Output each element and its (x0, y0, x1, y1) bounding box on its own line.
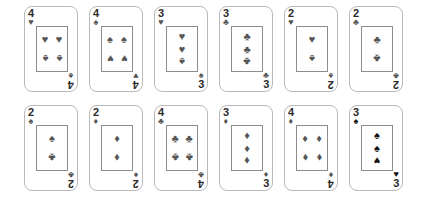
card-pip: ♠ (363, 142, 391, 154)
spade-icon: ♠ (298, 53, 326, 65)
heart-icon: ♥ (133, 72, 138, 80)
card-corner-bottom-right: 4♦ (328, 171, 334, 189)
card-corner-bottom-right: 3♦ (263, 171, 269, 189)
card-pip-box: ♥♥♠♠ (36, 26, 68, 72)
diamond-icon: ♦ (233, 155, 261, 167)
playing-card[interactable]: 3♠♠♠♥3♥ (349, 105, 403, 191)
card-pip: ♠ (168, 56, 196, 68)
card-pip: ♠ (103, 33, 117, 45)
club-icon: ♣ (223, 18, 229, 26)
playing-card[interactable]: 3♥♥♥♠3♠ (154, 6, 208, 92)
card-pip: ♦ (298, 152, 312, 164)
card-pip: ♣ (233, 43, 261, 55)
playing-card[interactable]: 2♠♠♣2♣ (24, 105, 78, 191)
playing-card[interactable]: 2♥♥♠2♠ (284, 6, 338, 92)
card-pip-box: ♣♣♣ (231, 26, 263, 72)
card-pip-box: ♥♠ (296, 26, 328, 72)
spade-icon: ♠ (354, 117, 359, 125)
heart-icon: ♥ (309, 33, 316, 45)
card-pip-box: ♥♥♠ (166, 26, 198, 72)
card-pip: ♠ (52, 53, 66, 65)
diamond-icon: ♦ (244, 142, 250, 154)
club-icon: ♣ (243, 43, 250, 55)
card-pip: ♦ (312, 132, 326, 144)
card-corner-top-left: 2♦ (93, 107, 99, 125)
card-corner-top-left: 3♦ (223, 107, 229, 125)
card-pip: ♠ (363, 129, 391, 141)
heart-icon: ♥ (158, 18, 163, 26)
card-corner-top-left: 3♣ (223, 8, 229, 26)
card-pip: ♥ (363, 155, 391, 167)
card-pip: ♥ (117, 53, 131, 65)
club-icon: ♣ (172, 152, 179, 164)
club-icon: ♣ (68, 171, 74, 179)
spade-icon: ♠ (374, 129, 380, 141)
card-corner-bottom-right: 2♣ (393, 72, 399, 90)
card-corner-top-left: 2♥ (288, 8, 294, 26)
card-corner-bottom-right: 4♣ (198, 171, 204, 189)
card-pip-box: ♦♦ (101, 125, 133, 171)
club-icon: ♣ (158, 117, 164, 125)
card-corner-bottom-right: 4♥ (133, 72, 139, 90)
diamond-icon: ♦ (224, 117, 229, 125)
card-corner-bottom-right: 2♦ (133, 171, 139, 189)
card-pip: ♣ (363, 33, 391, 45)
playing-card[interactable]: 2♦♦♦2♦ (89, 105, 143, 191)
card-pip: ♠ (117, 33, 131, 45)
heart-icon: ♥ (56, 33, 63, 45)
card-pip: ♦ (298, 132, 312, 144)
heart-icon: ♥ (28, 18, 33, 26)
card-rank-label-secondary: 3 (198, 79, 204, 90)
card-corner-top-left: 4♠ (93, 8, 99, 26)
card-pip: ♣ (233, 56, 261, 68)
card-pip: ♣ (182, 132, 196, 144)
club-icon: ♣ (393, 72, 399, 80)
card-pip-box: ♠♣ (36, 125, 68, 171)
playing-card[interactable]: 3♦♦♦♦3♦ (219, 105, 273, 191)
card-corner-top-left: 3♠ (353, 107, 359, 125)
diamond-icon: ♦ (329, 171, 334, 179)
card-corner-top-left: 4♦ (288, 107, 294, 125)
card-pip: ♣ (182, 152, 196, 164)
diamond-icon: ♦ (94, 117, 99, 125)
card-corner-top-left: 3♥ (158, 8, 164, 26)
diamond-icon: ♦ (114, 132, 120, 144)
club-icon: ♣ (373, 33, 380, 45)
playing-card[interactable]: 2♣♣♣2♣ (349, 6, 403, 92)
card-row-top: 4♥♥♥♠♠4♠4♠♠♠♥♥4♥3♥♥♥♠3♠3♣♣♣♣3♣2♥♥♠2♠2♣♣♣… (0, 6, 440, 100)
diamond-icon: ♦ (289, 117, 294, 125)
card-pip-box: ♦♦♦ (231, 125, 263, 171)
playing-card[interactable]: 4♠♠♠♥♥4♥ (89, 6, 143, 92)
playing-card[interactable]: 3♣♣♣♣3♣ (219, 6, 273, 92)
card-pip-box: ♠♠♥ (361, 125, 393, 171)
card-pip: ♦ (233, 155, 261, 167)
playing-card[interactable]: 4♣♣♣♣♣4♣ (154, 105, 208, 191)
card-rank-label-secondary: 3 (263, 178, 269, 189)
card-rank-label-secondary: 3 (263, 79, 269, 90)
diamond-icon: ♦ (244, 129, 250, 141)
spade-icon: ♠ (374, 142, 380, 154)
playing-card[interactable]: 4♦♦♦♦♦4♦ (284, 105, 338, 191)
card-rank-label-secondary: 3 (393, 178, 399, 189)
card-pip: ♣ (363, 53, 391, 65)
card-pip: ♠ (38, 53, 52, 65)
club-icon: ♣ (38, 152, 66, 164)
spade-icon: ♠ (56, 53, 63, 65)
card-corner-top-left: 4♣ (158, 107, 164, 125)
card-corner-bottom-right: 4♠ (68, 72, 74, 90)
card-corner-bottom-right: 2♣ (68, 171, 74, 189)
card-pip: ♠ (298, 53, 326, 65)
playing-card[interactable]: 4♥♥♥♠♠4♠ (24, 6, 78, 92)
diamond-icon: ♦ (103, 152, 131, 164)
card-pip: ♣ (233, 30, 261, 42)
club-icon: ♣ (198, 171, 204, 179)
card-corner-top-left: 2♣ (353, 8, 359, 26)
club-icon: ♣ (363, 53, 391, 65)
spade-icon: ♠ (94, 18, 99, 26)
heart-icon: ♥ (107, 53, 114, 65)
diamond-icon: ♦ (302, 132, 308, 144)
diamond-icon: ♦ (316, 152, 323, 164)
card-corner-bottom-right: 3♠ (198, 72, 204, 90)
spade-icon: ♠ (42, 53, 49, 65)
spade-icon: ♠ (329, 72, 334, 80)
